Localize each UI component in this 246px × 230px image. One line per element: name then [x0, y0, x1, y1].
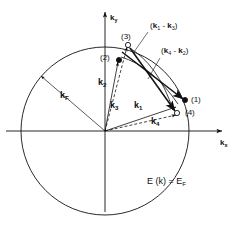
k1-vector-label: k1 [134, 101, 142, 110]
fermi-energy-equation: E (k) = EF [147, 177, 186, 186]
k2-vector-label: k2 [98, 78, 106, 87]
point-3-label: (3) [121, 33, 131, 41]
k2-vector-arrow [105, 62, 118, 131]
marker-point-4 [174, 110, 179, 115]
k3-vector-label: k3 [110, 101, 118, 110]
fermi-sphere-scattering-figure: ky kx kF k2 k3 k1 k4 (1) (2) (3) (4) (k1… [0, 0, 246, 230]
kf-radius-label: kF [60, 91, 69, 100]
point-2-label: (2) [100, 54, 110, 62]
y-axis-label: ky [110, 14, 117, 22]
scattering-arc-upper [121, 57, 178, 104]
point-4-label: (4) [185, 109, 195, 117]
marker-point-1 [182, 97, 187, 102]
k4-vector-label: k4 [151, 117, 159, 126]
kf-radius-arrow [41, 76, 105, 131]
marker-point-3 [125, 42, 130, 47]
point-1-label: (1) [191, 96, 201, 104]
marker-point-2 [116, 57, 121, 62]
k4-vector-arrow [105, 115, 176, 131]
transfer-arrow-to-1 [122, 52, 183, 99]
momentum-transfer-4-2-label: (k4 - k2) [161, 47, 188, 55]
leader-line-1-3 [134, 32, 148, 52]
momentum-transfer-1-3-label: (k1 - k3) [150, 22, 177, 30]
x-axis-label: kx [220, 139, 227, 147]
